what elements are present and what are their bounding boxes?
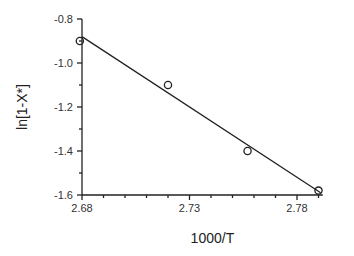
y-tick-label: -0.8 <box>54 13 73 25</box>
y-tick-label: -1.2 <box>54 101 73 113</box>
y-tick-label: -1.6 <box>54 189 73 201</box>
chart: -0.8-1.0-1.2-1.4-1.62.682.732.781000/Tln… <box>0 0 354 256</box>
x-tick-label: 2.78 <box>286 202 307 214</box>
x-tick-label: 2.73 <box>179 202 200 214</box>
data-point <box>164 81 171 88</box>
y-axis-title: ln[1-X*] <box>14 84 30 130</box>
x-axis-title: 1000/T <box>191 230 235 246</box>
x-tick-label: 2.68 <box>71 202 92 214</box>
y-tick-label: -1.4 <box>54 145 73 157</box>
data-point <box>244 147 251 154</box>
y-tick-label: -1.0 <box>54 57 73 69</box>
data-point <box>315 187 322 194</box>
fit-line <box>82 37 321 193</box>
